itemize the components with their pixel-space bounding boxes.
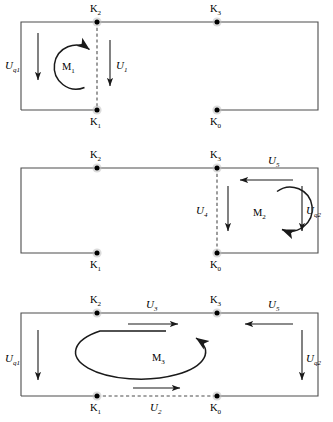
panel-3-label-u2: U2 (150, 401, 162, 416)
panel-1-label-uq1: Uq1 (5, 59, 20, 74)
panel-3-label-uq2: Uq2 (306, 352, 321, 367)
diagram-canvas: Uq1 U1 M1 K2 K3 K1 K0 (0, 0, 333, 422)
panel-3-mesh-3: U3 U5 Uq1 Uq2 U2 M3 K2 K3 K1 (5, 294, 321, 416)
panel-3-node-k2-label: K2 (90, 294, 102, 308)
panel-1-node-k0-label: K0 (210, 116, 222, 130)
panel-2-label-u4: U4 (196, 204, 208, 219)
panel-2-label-m2: M2 (253, 207, 266, 221)
panel-2-outer-wire (21, 168, 318, 253)
panel-1-node-k1: K1 (90, 105, 102, 130)
panel-2-node-k0: K0 (210, 248, 222, 273)
panel-2-node-k3: K3 (210, 149, 222, 173)
panel-3-label-uq1: Uq1 (5, 352, 20, 367)
mesh-diagram-figure: Uq1 U1 M1 K2 K3 K1 K0 (0, 0, 333, 422)
panel-3-node-k0: K0 (210, 391, 222, 416)
panel-2-node-k2: K2 (90, 149, 102, 173)
panel-2-label-u5: U5 (268, 154, 280, 169)
panel-3-node-k1-label: K1 (90, 402, 102, 416)
panel-1-node-k2-label: K2 (90, 3, 102, 17)
panel-1-node-k3: K3 (210, 3, 222, 27)
panel-1-node-k2: K2 (90, 3, 102, 27)
panel-1-node-k0: K0 (210, 105, 222, 130)
panel-1-node-k3-label: K3 (210, 3, 222, 17)
panel-2-node-k3-label: K3 (210, 149, 222, 163)
panel-2-node-k1-label: K1 (90, 259, 102, 273)
panel-2-label-uq2: Uq2 (306, 204, 321, 219)
panel-1-mesh-1: Uq1 U1 M1 K2 K3 K1 K0 (5, 3, 318, 130)
panel-3-label-u5: U5 (268, 298, 280, 313)
panel-3-node-k3-label: K3 (210, 294, 222, 308)
panel-3-node-k3: K3 (210, 294, 222, 318)
panel-3-node-k1: K1 (90, 391, 102, 416)
panel-2-node-k2-label: K2 (90, 149, 102, 163)
panel-3-node-k0-label: K0 (210, 402, 222, 416)
panel-1-label-m1: M1 (62, 61, 75, 75)
panel-3-outer-wire (21, 313, 318, 396)
panel-2-node-k0-label: K0 (210, 259, 222, 273)
panel-3-label-u3: U3 (146, 298, 158, 313)
panel-3-label-m3: M3 (152, 352, 165, 366)
panel-1-label-u1: U1 (116, 59, 127, 74)
panel-1-node-k1-label: K1 (90, 116, 102, 130)
panel-2-mesh-2: U5 U4 Uq2 M2 K2 K3 K1 K0 (21, 149, 321, 273)
panel-3-node-k2: K2 (90, 294, 102, 318)
panel-2-node-k1: K1 (90, 248, 102, 273)
panel-3-loop-m3 (76, 331, 206, 379)
